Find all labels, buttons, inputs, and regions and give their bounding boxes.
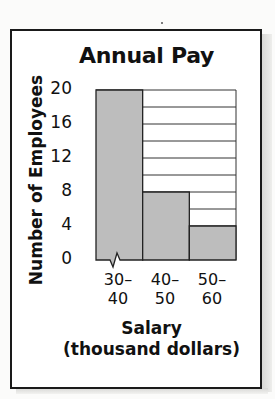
bar-40–50 [143, 192, 190, 260]
x-tick-50-60: 50– 60 [189, 270, 235, 308]
x-axis-label: Salary [14, 318, 275, 339]
x-axis-unit: (thousand dollars) [14, 339, 275, 360]
x-tick-line1: 50– [189, 270, 235, 289]
x-tick-30-40: 30– 40 [95, 270, 141, 308]
bars [96, 90, 236, 267]
x-tick-line1: 30– [95, 270, 141, 289]
x-tick-line2: 50 [142, 289, 188, 308]
x-tick-line2: 40 [95, 289, 141, 308]
bar-30–40 [96, 90, 143, 267]
x-tick-line1: 40– [142, 270, 188, 289]
x-tick-line2: 60 [189, 289, 235, 308]
bar-50–60 [189, 226, 236, 260]
x-tick-40-50: 40– 50 [142, 270, 188, 308]
